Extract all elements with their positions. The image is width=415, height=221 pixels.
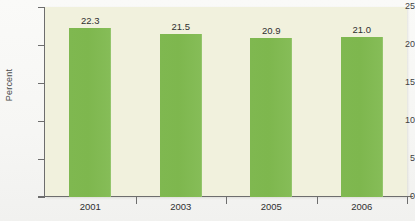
bar-value-2005: 20.9 [246, 25, 296, 36]
y-tick-label-5: 5 [381, 153, 415, 163]
bar-value-2006: 21.0 [337, 24, 387, 35]
y-tick-25 [38, 7, 45, 8]
x-tick-boundary-2 [226, 197, 227, 204]
bar-2003 [160, 34, 202, 197]
y-tick-label-10: 10 [381, 115, 415, 125]
y-tick-0 [38, 197, 45, 198]
y-tick-10 [38, 121, 45, 122]
y-tick-20 [38, 45, 45, 46]
bar-value-2003: 21.5 [156, 21, 206, 32]
x-category-label-2006: 2006 [332, 201, 392, 212]
y-axis-title: Percent [4, 55, 14, 115]
y-tick-label-0: 0 [381, 191, 415, 201]
x-category-label-2005: 2005 [241, 201, 301, 212]
bar-2006 [341, 37, 383, 197]
x-tick-boundary-1 [136, 197, 137, 204]
x-category-label-2001: 2001 [60, 201, 120, 212]
bar-2001 [69, 28, 111, 197]
x-category-label-2003: 2003 [151, 201, 211, 212]
y-tick-label-20: 20 [381, 39, 415, 49]
bar-value-2001: 22.3 [65, 15, 115, 26]
bar-chart: 0510152025 22.321.520.921.0 200120032005… [0, 0, 415, 221]
x-tick-boundary-3 [317, 197, 318, 204]
y-tick-15 [38, 83, 45, 84]
x-tick-boundary-end [407, 197, 408, 204]
y-tick-label-15: 15 [381, 77, 415, 87]
y-tick-label-25: 25 [381, 1, 415, 11]
y-tick-5 [38, 159, 45, 160]
y-axis-line [44, 7, 45, 197]
bar-2005 [250, 38, 292, 197]
